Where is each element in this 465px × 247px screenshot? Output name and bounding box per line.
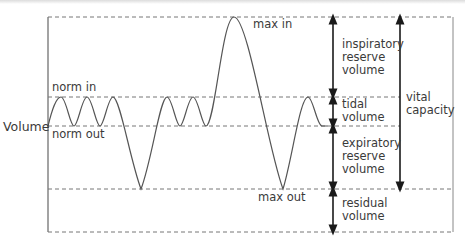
residual-label-line2: volume	[342, 210, 388, 223]
erv-label-line3: volume	[342, 163, 401, 176]
norm-in-label: norm in	[52, 81, 96, 94]
max-in-label: max in	[253, 18, 292, 31]
max-out-label: max out	[258, 191, 306, 204]
breathing-waveform	[48, 17, 328, 189]
norm-out-label: norm out	[52, 128, 105, 141]
tidal-label-line2: volume	[342, 111, 385, 124]
irv-label-line3: volume	[342, 64, 404, 77]
tidal-label: tidal volume	[342, 98, 385, 124]
irv-label: inspiratory reserve volume	[342, 38, 404, 77]
vital-capacity-label: vital capacity	[406, 91, 455, 117]
residual-label: residual volume	[342, 197, 388, 223]
volume-axis-label: Volume	[3, 120, 50, 133]
erv-label: expiratory reserve volume	[342, 137, 401, 176]
vital-capacity-line2: capacity	[406, 104, 455, 117]
